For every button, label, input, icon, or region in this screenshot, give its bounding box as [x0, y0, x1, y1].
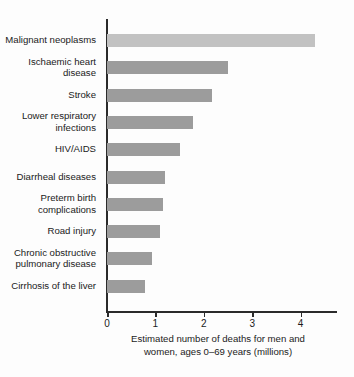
x-axis-line — [106, 311, 337, 313]
x-tick-label: 3 — [240, 318, 264, 330]
category-label: Stroke — [0, 89, 96, 101]
bar-row[interactable] — [107, 143, 180, 156]
x-tick — [204, 312, 206, 317]
x-tick-label: 4 — [289, 318, 313, 330]
bar[interactable] — [107, 252, 152, 265]
bar-row[interactable] — [107, 280, 145, 293]
x-axis-title-line1: Estimated number of deaths for men and — [90, 333, 346, 346]
bar-row[interactable] — [107, 61, 228, 74]
bar-row[interactable] — [107, 198, 163, 211]
bar[interactable] — [107, 89, 212, 102]
bar[interactable] — [107, 61, 228, 74]
bar[interactable] — [107, 116, 193, 129]
bar[interactable] — [107, 198, 163, 211]
category-label: Lower respiratory infections — [0, 110, 96, 133]
bar-row[interactable] — [107, 34, 315, 47]
bar-row[interactable] — [107, 252, 152, 265]
x-tick — [252, 312, 254, 317]
bar-row[interactable] — [107, 225, 160, 238]
bar[interactable] — [107, 280, 145, 293]
bar[interactable] — [107, 225, 160, 238]
bar-row[interactable] — [107, 116, 193, 129]
category-label: HIV/AIDS — [0, 143, 96, 155]
category-label: Road injury — [0, 225, 96, 237]
bar-chart: 01234 Malignant neoplasmsIschaemic heart… — [0, 0, 354, 377]
category-label: Malignant neoplasms — [0, 34, 96, 46]
x-tick-label: 1 — [143, 318, 167, 330]
bar[interactable] — [107, 34, 315, 47]
bar-row[interactable] — [107, 171, 165, 184]
category-label: Ischaemic heart disease — [0, 56, 96, 79]
x-axis-title-line2: women, ages 0–69 years (millions) — [90, 346, 346, 359]
bar[interactable] — [107, 143, 180, 156]
x-tick — [301, 312, 303, 317]
category-label: Cirrhosis of the liver — [0, 280, 96, 292]
x-axis-title: Estimated number of deaths for men and w… — [90, 333, 346, 358]
category-label: Diarrheal diseases — [0, 171, 96, 183]
x-tick — [155, 312, 157, 317]
category-label: Preterm birth complications — [0, 192, 96, 215]
x-tick-label: 2 — [192, 318, 216, 330]
bar[interactable] — [107, 171, 165, 184]
bar-row[interactable] — [107, 89, 212, 102]
x-tick — [107, 312, 109, 317]
plot-area: 01234 Malignant neoplasmsIschaemic heart… — [0, 0, 354, 377]
category-label: Chronic obstructive pulmonary disease — [0, 247, 96, 270]
x-tick-label: 0 — [95, 318, 119, 330]
